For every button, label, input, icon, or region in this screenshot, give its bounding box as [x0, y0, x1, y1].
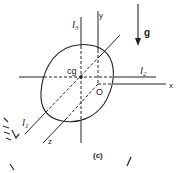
y-axis-label: y	[99, 11, 103, 20]
cg-point	[79, 75, 83, 79]
l2-label: l2	[140, 64, 147, 78]
origin-label: O	[96, 87, 103, 97]
l3-label: l3	[72, 18, 79, 32]
z-axis-dashed	[66, 84, 98, 119]
z-axis-label: z	[48, 137, 52, 146]
l1-label: l1	[22, 116, 29, 130]
rigid-body-diagram: l3 y g cg l2 x O l1 z (c)	[0, 0, 185, 173]
x-axis-label: x	[169, 81, 173, 90]
cg-label: cg	[67, 66, 77, 76]
gravity-arrow-head	[135, 38, 141, 46]
gravity-label: g	[144, 27, 150, 38]
l1-axis-dashed	[45, 56, 100, 113]
figure-caption: (c)	[93, 151, 103, 160]
body-outline	[41, 45, 113, 122]
l1-axis-line-upper	[100, 35, 120, 56]
z-axis-line	[43, 119, 66, 143]
